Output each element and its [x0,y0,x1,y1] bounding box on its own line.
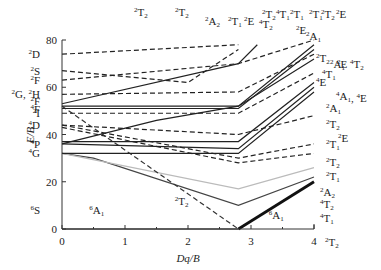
series-line [62,40,314,80]
y-tick-label: 60 [46,81,58,93]
term-label: 2I [33,107,41,119]
term-label: 2T2 [316,52,330,66]
y-tick-label: 20 [46,176,58,188]
series-line [62,59,314,144]
term-label: 4T2 [350,58,364,72]
x-tick-label: 2 [185,235,191,247]
term-label: 2T2 [326,118,340,132]
series-line [238,182,314,229]
term-label: 6S [30,204,40,216]
term-label: 2T1 [228,15,242,29]
term-label: 2T2 [175,195,189,209]
term-label: 2A1 [326,102,341,116]
series-line [62,54,314,94]
term-label: 2A2 [205,15,220,29]
term-label: 2T2 [175,6,189,20]
term-label: 4A1, 4E [336,90,367,104]
term-label: 4T2 [320,198,334,212]
y-tick-label: 0 [52,223,58,235]
tanabe-sugano-chart: 01234020406080 E/B Dq/B 2D2S2F2G, 2H2F4F… [0,0,381,270]
term-label: 2T2 [325,236,339,250]
term-label: 4T1 [276,8,290,22]
x-tick-label: 3 [248,235,254,247]
term-label: 4T2 [259,18,273,32]
term-label: 2T2 [321,8,335,22]
term-label: 2T2 [134,6,148,20]
x-axis-title: Dq/B [175,252,200,264]
term-label: 2E [338,132,349,144]
x-tick-label: 1 [122,235,128,247]
term-label: 4G [29,147,41,159]
series-line [62,49,314,108]
term-label: 6A1 [89,204,104,218]
term-label: 2D [29,48,41,60]
series-line [62,87,314,148]
series-line [62,45,238,54]
series-line [62,92,314,153]
term-label: 2E [336,8,347,20]
term-label: 4E [316,76,327,88]
term-label: 2T1 [326,170,340,184]
term-label: 2T2 [326,156,340,170]
y-tick-label: 80 [46,34,58,46]
term-label: 2T1 [290,8,304,22]
term-label: 4T1 [320,212,334,226]
x-tick-label: 4 [311,235,317,247]
series-line [62,83,314,142]
term-label: 2T1 [326,138,340,152]
term-label: 6A1 [269,209,284,223]
y-tick-label: 40 [46,129,58,141]
term-label: 2F [30,74,40,86]
term-label: 2E [296,24,307,36]
term-label: 2E [244,15,255,27]
x-tick-label: 0 [59,235,65,247]
series-line [62,45,257,104]
